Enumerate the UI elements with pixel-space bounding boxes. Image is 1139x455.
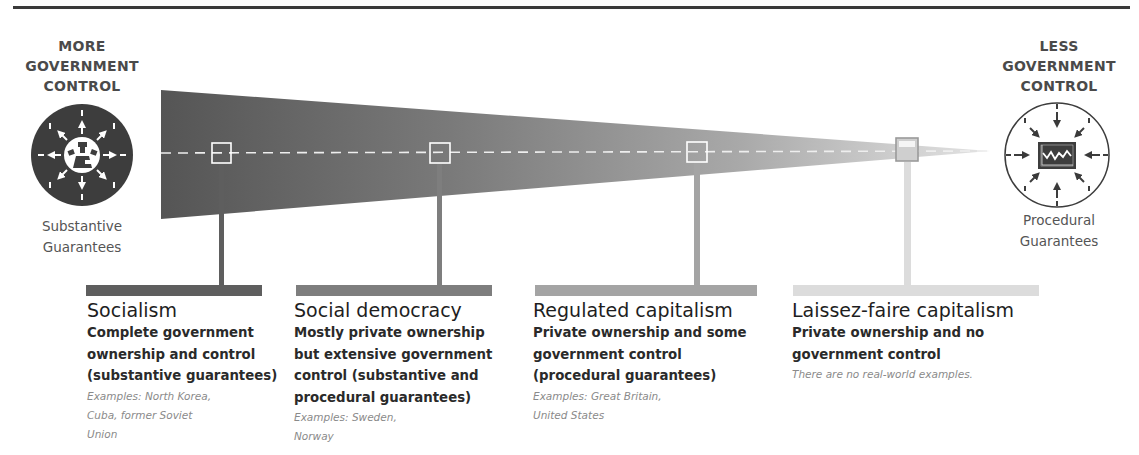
socialism-stem [219, 164, 224, 286]
control-wedge [161, 90, 990, 219]
social-democracy-stem [437, 164, 442, 286]
system-examples-line: Union [87, 425, 277, 444]
system-description-line: government control [792, 344, 1014, 366]
system-card-regulated-capitalism: Regulated capitalism Private ownership a… [533, 298, 747, 425]
system-card-laissez-faire-capitalism: Laissez-faire capitalism Private ownersh… [792, 298, 1014, 384]
laissez-faire-bar [793, 285, 1039, 296]
laissez-faire-marker-highlight [899, 141, 915, 147]
system-description-line: control (substantive and [294, 365, 492, 387]
system-description-line: ownership and control [87, 344, 277, 366]
system-description-line: Private ownership and no [792, 322, 1014, 344]
system-description-line: government control [533, 344, 747, 366]
system-examples-line: There are no real-world examples. [792, 365, 1014, 384]
system-title: Socialism [87, 298, 277, 322]
system-description-line: procedural guarantees) [294, 387, 492, 409]
system-description-line: (procedural guarantees) [533, 365, 747, 387]
system-examples-line: Cuba, former Soviet [87, 406, 277, 425]
inward-arrows-market-chart-circle-icon [1005, 103, 1109, 207]
system-description-line: but extensive government [294, 344, 492, 366]
system-examples-line: Examples: Great Britain, [533, 387, 747, 406]
system-description-line: Private ownership and some [533, 322, 747, 344]
social-democracy-bar [296, 285, 492, 296]
socialism-bar [86, 285, 262, 296]
system-card-social-democracy: Social democracy Mostly private ownershi… [294, 298, 492, 446]
system-description-line: (substantive guarantees) [87, 365, 277, 387]
regulated-capitalism-bar [535, 285, 757, 296]
system-examples-line: United States [533, 406, 747, 425]
system-title: Laissez-faire capitalism [792, 298, 1014, 322]
system-examples-line: Norway [294, 427, 492, 446]
system-description-line: Complete government [87, 322, 277, 344]
regulated-capitalism-stem [694, 162, 700, 286]
system-examples-line: Examples: Sweden, [294, 408, 492, 427]
outward-arrows-circle-icon [31, 104, 133, 206]
system-examples-line: Examples: North Korea, [87, 387, 277, 406]
system-card-socialism: Socialism Complete government ownership … [87, 298, 277, 444]
system-title: Regulated capitalism [533, 298, 747, 322]
laissez-faire-stem [904, 162, 911, 286]
system-title: Social democracy [294, 298, 492, 322]
system-description-line: Mostly private ownership [294, 322, 492, 344]
